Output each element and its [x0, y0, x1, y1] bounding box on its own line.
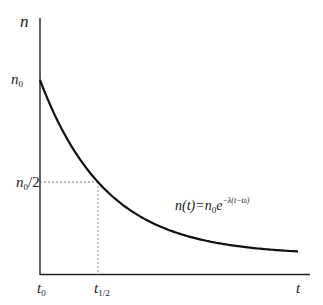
decay-equation: n(t)=n0e−λ(t−t0)	[175, 197, 249, 215]
n0-tick-label: n0	[11, 72, 23, 89]
n0-base: n	[11, 71, 19, 87]
thalf-tick-label: t1/2	[94, 281, 110, 298]
decay-curve	[40, 80, 298, 251]
equation-exponent: −λ(t−t0)	[222, 196, 249, 205]
n0-sub: 0	[19, 79, 24, 89]
y-axis-label: n	[20, 13, 29, 30]
thalf-sub: 1/2	[98, 288, 110, 298]
t0-sub: 0	[41, 288, 46, 298]
decay-plot	[0, 0, 323, 305]
half-n0-suffix: /2	[28, 174, 40, 190]
equation-lhs: n(t)=n	[175, 198, 212, 213]
half-n0-tick-label: n0/2	[16, 175, 40, 192]
t0-tick-label: t0	[37, 281, 46, 298]
half-n0-base: n	[16, 174, 24, 190]
x-axis-label: t	[296, 281, 300, 296]
